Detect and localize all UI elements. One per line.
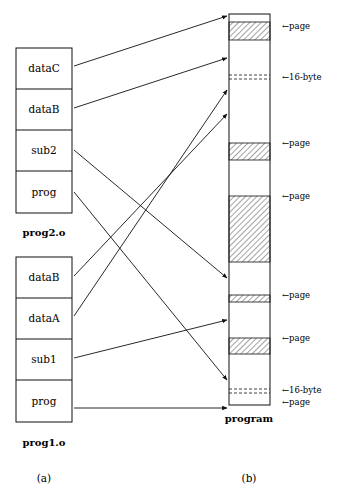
linker-layout-diagram: dataC dataB sub2 prog prog2.o dataB data…: [0, 0, 346, 502]
section-label: prog: [32, 186, 57, 198]
module-caption: prog2.o: [22, 227, 65, 238]
section-label: sub2: [31, 144, 57, 156]
program-column: [229, 14, 270, 405]
section-label: dataA: [28, 312, 59, 324]
mapping-arrows: [74, 16, 227, 408]
page-boundary-label: ←page: [282, 333, 310, 343]
section-label: prog: [32, 395, 57, 407]
page-boundary-label: ←page: [282, 138, 310, 148]
section-label: dataC: [28, 62, 60, 74]
page-boundary-label: ←page: [282, 191, 310, 201]
section-label: sub1: [31, 353, 57, 365]
page-boundary-label: ←page: [282, 397, 310, 407]
module-caption: prog1.o: [22, 437, 65, 448]
section-label: dataB: [28, 103, 59, 115]
page-boundary-label: ←page: [282, 21, 310, 31]
panel-label-a: (a): [37, 472, 51, 484]
page-boundary-label: ←page: [282, 290, 310, 300]
program-caption: program: [225, 413, 274, 424]
alignment-label: ←16-byte: [282, 72, 322, 82]
panel-label-b: (b): [242, 472, 257, 484]
section-label: dataB: [28, 271, 59, 283]
alignment-label: ←16-byte: [282, 385, 322, 395]
